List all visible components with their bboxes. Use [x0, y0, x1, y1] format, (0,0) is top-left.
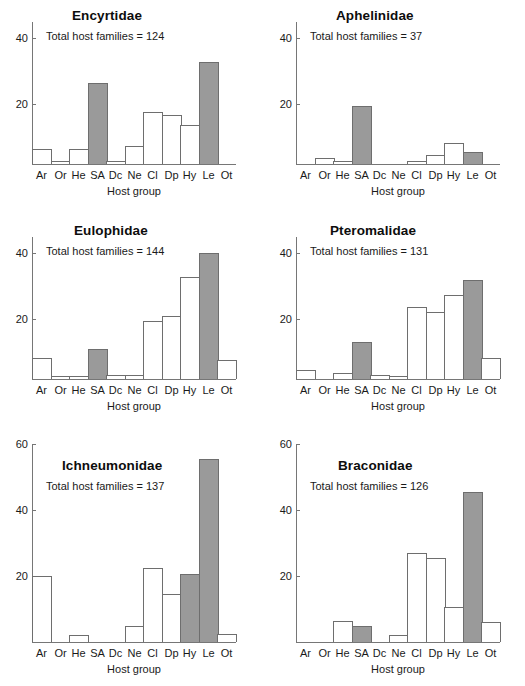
bar-le [463, 152, 483, 164]
bar-or [51, 376, 71, 379]
bar-he [69, 635, 89, 642]
bar-hy [444, 607, 464, 642]
chart-panel-aphelinidae: AphelinidaeTotal host families = 372040A… [262, 0, 525, 215]
bar-series [296, 444, 500, 642]
x-tick-label-ot: Ot [478, 647, 503, 659]
bar-ar [32, 576, 52, 642]
bar-sa [352, 106, 372, 165]
bar-cl [407, 307, 427, 379]
chart-panel-braconidae: BraconidaeTotal host families = 12620406… [262, 430, 525, 686]
y-tick-label: 20 [270, 314, 292, 325]
bar-dc [370, 375, 390, 380]
y-tick-label: 20 [6, 99, 28, 110]
bar-cl [143, 321, 163, 380]
bar-cl [407, 553, 427, 642]
y-tick-label: 20 [270, 571, 292, 582]
bar-he [333, 373, 353, 379]
x-axis-title: Host group [296, 400, 500, 412]
bar-ne [125, 146, 145, 164]
y-tick-label: 40 [6, 33, 28, 44]
bar-or [315, 158, 335, 164]
x-axis-line [32, 379, 236, 380]
x-tick-label-ot: Ot [478, 169, 503, 181]
bar-ne [125, 626, 145, 643]
bar-series [32, 444, 236, 642]
x-axis-line [296, 379, 500, 380]
bar-le [463, 280, 483, 379]
bar-le [463, 492, 483, 642]
x-axis-line [32, 164, 236, 165]
bar-ne [389, 635, 409, 642]
x-axis-title: Host group [32, 400, 236, 412]
bar-cl [407, 161, 427, 164]
plot-area: 2040ArOrHeSADcNeClDpHyLeOtHost group [32, 22, 236, 164]
bar-hy [180, 277, 200, 379]
bar-dp [426, 312, 446, 380]
bar-series [296, 22, 500, 164]
panel-title: Eulophidae [74, 223, 148, 238]
x-tick-label-ot: Ot [214, 647, 239, 659]
y-tick-label: 60 [270, 439, 292, 450]
bar-ot [481, 358, 501, 379]
bar-hy [180, 125, 200, 164]
bar-he [333, 161, 353, 164]
bar-series [32, 237, 236, 379]
x-tick-label-ot: Ot [214, 169, 239, 181]
panel-title: Pteromalidae [330, 223, 416, 238]
chart-panel-eulophidae: EulophidaeTotal host families = 1442040A… [0, 215, 262, 430]
bar-sa [352, 342, 372, 380]
bar-cl [143, 568, 163, 642]
x-axis-title: Host group [32, 185, 236, 197]
x-axis-title: Host group [32, 663, 236, 675]
bar-ar [32, 149, 52, 164]
chart-panel-pteromalidae: PteromalidaeTotal host families = 131204… [262, 215, 525, 430]
bar-series [296, 237, 500, 379]
bar-le [199, 459, 219, 642]
bar-dp [426, 155, 446, 164]
y-tick-label: 40 [270, 505, 292, 516]
y-tick-label: 40 [6, 248, 28, 259]
x-tick-label-ot: Ot [214, 384, 239, 396]
bar-dp [426, 558, 446, 642]
x-axis-line [296, 164, 500, 165]
bar-ot [481, 622, 501, 642]
bar-he [333, 621, 353, 642]
plot-area: 204060ArOrHeSADcNeClDpHyLeOtHost group [32, 444, 236, 642]
y-tick-label: 20 [6, 314, 28, 325]
bar-ot [217, 634, 237, 642]
figure-panel-grid: EncyrtidaeTotal host families = 1242040A… [0, 0, 525, 686]
bar-ar [296, 370, 316, 379]
y-tick-label: 60 [6, 439, 28, 450]
bar-sa [88, 349, 108, 379]
bar-dc [106, 375, 126, 380]
bar-he [69, 376, 89, 379]
plot-area: 2040ArOrHeSADcNeClDpHyLeOtHost group [296, 237, 500, 379]
bar-ne [125, 375, 145, 380]
bar-le [199, 62, 219, 164]
y-tick-label: 20 [270, 99, 292, 110]
bar-dp [162, 316, 182, 379]
x-axis-line [32, 642, 236, 643]
bar-hy [444, 143, 464, 164]
y-tick-label: 40 [270, 248, 292, 259]
bar-or [51, 161, 71, 164]
bar-le [199, 253, 219, 379]
plot-area: 2040ArOrHeSADcNeClDpHyLeOtHost group [296, 22, 500, 164]
bar-hy [444, 295, 464, 379]
bar-he [69, 149, 89, 164]
panel-title: Aphelinidae [336, 8, 414, 23]
plot-area: 204060ArOrHeSADcNeClDpHyLeOtHost group [296, 444, 500, 642]
panel-title: Encyrtidae [72, 8, 142, 23]
bar-hy [180, 574, 200, 642]
chart-panel-ichneumonidae: IchneumonidaeTotal host families = 13720… [0, 430, 262, 686]
bar-cl [143, 112, 163, 165]
bar-dc [106, 161, 126, 164]
page-edge-artifact [10, 679, 130, 685]
bar-sa [88, 83, 108, 164]
x-tick-label-ot: Ot [478, 384, 503, 396]
bar-ne [389, 376, 409, 379]
x-axis-title: Host group [296, 185, 500, 197]
bar-dp [162, 594, 182, 642]
y-tick-label: 20 [6, 571, 28, 582]
bar-sa [352, 626, 372, 643]
